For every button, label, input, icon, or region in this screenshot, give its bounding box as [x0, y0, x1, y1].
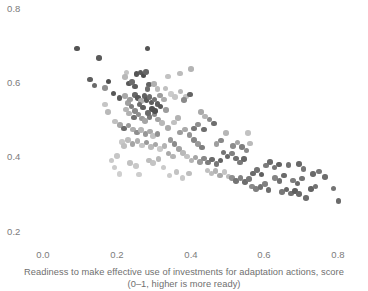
- scatter-point[interactable]: [165, 125, 171, 131]
- scatter-point[interactable]: [162, 143, 168, 149]
- scatter-point[interactable]: [266, 187, 272, 193]
- scatter-point[interactable]: [262, 181, 268, 187]
- scatter-point[interactable]: [211, 121, 217, 127]
- scatter-point[interactable]: [159, 120, 165, 126]
- scatter-point[interactable]: [172, 94, 178, 100]
- scatter-point[interactable]: [174, 169, 180, 175]
- scatter-point[interactable]: [92, 83, 98, 89]
- y-tick-label: 0.6: [7, 78, 21, 88]
- y-tick-label: 0.4: [7, 152, 21, 162]
- scatter-point[interactable]: [132, 108, 138, 114]
- scatter-point[interactable]: [218, 158, 224, 164]
- scatter-point[interactable]: [111, 91, 117, 97]
- scatter-point[interactable]: [121, 143, 127, 149]
- scatter-point[interactable]: [177, 71, 183, 77]
- scatter-point[interactable]: [322, 174, 328, 180]
- scatter-point[interactable]: [195, 122, 201, 128]
- scatter-point[interactable]: [152, 108, 158, 114]
- scatter-point[interactable]: [201, 127, 207, 133]
- scatter-point[interactable]: [136, 172, 142, 178]
- scatter-point[interactable]: [102, 85, 108, 91]
- x-tick-label: 0.8: [331, 250, 345, 260]
- scatter-point[interactable]: [145, 110, 151, 116]
- scatter-point[interactable]: [181, 97, 187, 103]
- scatter-point[interactable]: [281, 173, 287, 179]
- scatter-point[interactable]: [112, 165, 118, 171]
- y-tick-label: 0.2: [7, 227, 21, 237]
- scatter-point[interactable]: [310, 171, 316, 177]
- scatter-point[interactable]: [299, 176, 305, 182]
- scatter-point[interactable]: [223, 130, 229, 136]
- scatter-chart: 0.80.60.40.2 0.00.20.40.60.8 Readiness t…: [0, 0, 368, 291]
- scatter-point[interactable]: [313, 184, 319, 190]
- scatter-point[interactable]: [276, 162, 282, 168]
- scatter-point[interactable]: [143, 69, 149, 75]
- scatter-point[interactable]: [170, 154, 176, 160]
- scatter-point[interactable]: [331, 186, 337, 192]
- scatter-point[interactable]: [150, 160, 156, 166]
- scatter-point[interactable]: [301, 166, 307, 172]
- x-axis-title-line1: Readiness to make effective use of inves…: [24, 267, 344, 277]
- scatter-point[interactable]: [267, 159, 273, 165]
- scatter-point[interactable]: [87, 77, 93, 83]
- scatter-point[interactable]: [182, 127, 188, 133]
- scatter-point[interactable]: [133, 163, 139, 169]
- scatter-point[interactable]: [246, 176, 252, 182]
- scatter-point[interactable]: [247, 141, 253, 147]
- x-axis-title-line2: (0–1, higher is more ready): [0, 279, 368, 291]
- scatter-point[interactable]: [286, 162, 292, 168]
- scatter-point[interactable]: [127, 160, 133, 166]
- scatter-point[interactable]: [96, 55, 102, 61]
- scatter-point[interactable]: [187, 92, 193, 98]
- scatter-point[interactable]: [105, 109, 111, 115]
- scatter-point[interactable]: [161, 165, 167, 171]
- scatter-point[interactable]: [199, 145, 205, 151]
- scatter-point[interactable]: [277, 178, 283, 184]
- scatter-point[interactable]: [127, 97, 133, 103]
- scatter-point[interactable]: [175, 115, 181, 121]
- scatter-point[interactable]: [106, 79, 112, 85]
- scatter-point[interactable]: [218, 138, 224, 144]
- scatter-point[interactable]: [163, 107, 169, 113]
- scatter-point[interactable]: [117, 171, 123, 177]
- scatter-point[interactable]: [156, 156, 162, 162]
- scatter-point[interactable]: [303, 195, 309, 201]
- scatter-point[interactable]: [155, 131, 161, 137]
- scatter-point[interactable]: [186, 171, 192, 177]
- scatter-point[interactable]: [245, 130, 251, 136]
- x-tick-label: 0.2: [110, 250, 124, 260]
- scatter-point[interactable]: [296, 191, 302, 197]
- scatter-point[interactable]: [114, 153, 120, 159]
- scatter-point[interactable]: [295, 181, 301, 187]
- x-axis-title: Readiness to make effective use of inves…: [0, 267, 368, 290]
- scatter-point[interactable]: [155, 86, 161, 92]
- scatter-point[interactable]: [165, 74, 171, 80]
- x-tick-label: 0.6: [257, 250, 271, 260]
- scatter-point[interactable]: [336, 198, 342, 204]
- scatter-point[interactable]: [178, 89, 184, 95]
- scatter-point[interactable]: [167, 173, 173, 179]
- scatter-point[interactable]: [163, 86, 169, 92]
- scatter-point[interactable]: [140, 105, 146, 111]
- scatter-point[interactable]: [145, 46, 151, 52]
- scatter-point[interactable]: [102, 102, 108, 108]
- plot-area: [0, 0, 368, 291]
- scatter-point[interactable]: [145, 86, 151, 92]
- scatter-point[interactable]: [241, 156, 247, 162]
- x-tick-label: 0.4: [184, 250, 198, 260]
- scatter-point[interactable]: [109, 158, 115, 164]
- scatter-point[interactable]: [122, 74, 128, 80]
- x-tick-label: 0.0: [36, 250, 50, 260]
- scatter-point[interactable]: [180, 175, 186, 181]
- scatter-point[interactable]: [316, 169, 322, 175]
- scatter-point[interactable]: [132, 84, 138, 90]
- y-tick-label: 0.8: [7, 4, 21, 14]
- scatter-point[interactable]: [259, 172, 265, 178]
- scatter-point[interactable]: [74, 46, 80, 52]
- scatter-point[interactable]: [188, 66, 194, 72]
- scatter-point[interactable]: [244, 148, 250, 154]
